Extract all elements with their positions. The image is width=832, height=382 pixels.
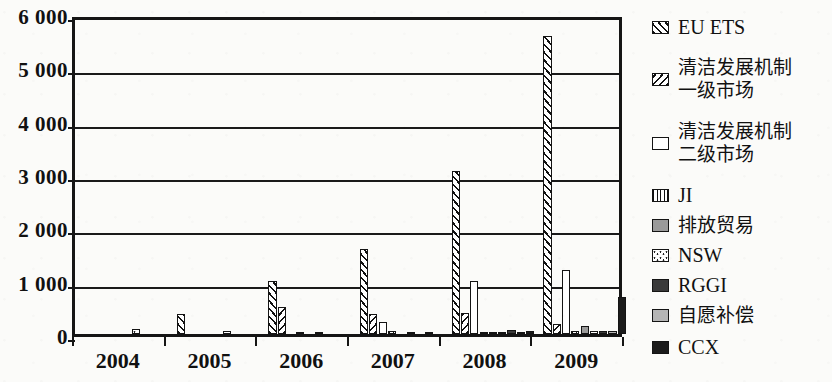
y-tick-mark	[68, 127, 75, 129]
bar-rggi-2008	[507, 330, 515, 334]
legend-item-cdm-secondary[interactable]: 清洁发展机制 二级市场	[652, 120, 792, 166]
legend-item-rggi[interactable]: RGGI	[652, 274, 727, 296]
legend-label: 清洁发展机制 二级市场	[678, 120, 792, 166]
bar-chart-figure: 6 0005 0004 0003 0002 0001 0000 20042005…	[0, 0, 832, 382]
bar-nsw-2008	[498, 332, 506, 334]
legend-label: NSW	[678, 244, 722, 266]
bar-eu-ets-2005	[177, 314, 185, 334]
ji-swatch-icon	[652, 189, 669, 202]
cdm-secondary-swatch-icon	[652, 137, 669, 150]
y-tick-label: 3 000	[18, 167, 68, 188]
bar-eu-ets-2009	[543, 36, 551, 334]
bar-voluntary-offset-2008	[517, 332, 525, 334]
legend-label: RGGI	[678, 274, 727, 296]
x-tick-mark	[255, 337, 257, 346]
x-tick-label: 2006	[279, 349, 323, 373]
legend-item-nsw[interactable]: NSW	[652, 244, 722, 266]
x-axis: 200420052006200720082009	[72, 337, 622, 382]
bar-nsw-2006	[315, 332, 323, 334]
bar-ji-2007	[388, 331, 396, 334]
x-tick-mark	[530, 337, 532, 346]
cdm-primary-swatch-icon	[652, 73, 669, 86]
y-tick-label: 0	[57, 327, 68, 348]
x-tick-mark	[347, 337, 349, 346]
y-tick-label: 4 000	[18, 113, 68, 134]
rggi-swatch-icon	[652, 279, 669, 292]
bar-cdm-secondary-2007	[379, 322, 387, 334]
bar-rggi-2009	[599, 331, 607, 334]
ccx-swatch-icon	[652, 341, 669, 354]
legend-item-cdm-primary[interactable]: 清洁发展机制 一级市场	[652, 56, 792, 102]
bar-emissions-trading-2009	[581, 326, 589, 334]
legend-item-voluntary-offset[interactable]: 自愿补偿	[652, 304, 754, 327]
legend-label: EU ETS	[678, 16, 745, 38]
bar-eu-ets-2007	[360, 249, 368, 334]
legend-item-ccx[interactable]: CCX	[652, 336, 719, 358]
y-tick-label: 2 000	[18, 220, 68, 241]
bar-nsw-2007	[407, 332, 415, 334]
y-tick-mark	[68, 73, 75, 75]
bar-series-container	[75, 20, 619, 334]
legend-item-ji[interactable]: JI	[652, 184, 692, 206]
bar-voluntary-offset-2007	[425, 332, 433, 334]
bar-cdm-secondary-2009	[562, 270, 570, 334]
legend-label: 排放贸易	[678, 214, 754, 237]
bar-cdm-primary-2007	[369, 314, 377, 334]
legend-item-emissions-trading[interactable]: 排放贸易	[652, 214, 754, 237]
emissions-trading-swatch-icon	[652, 219, 669, 232]
bar-nsw-2004	[132, 329, 140, 334]
y-tick-label: 1 000	[18, 273, 68, 294]
x-tick-label: 2008	[463, 349, 507, 373]
x-tick-mark	[622, 337, 624, 346]
bar-eu-ets-2008	[452, 171, 460, 334]
x-tick-mark	[72, 337, 74, 346]
x-tick-label: 2007	[371, 349, 415, 373]
plot-area	[72, 17, 622, 337]
nsw-swatch-icon	[652, 249, 669, 262]
legend-label: CCX	[678, 336, 719, 358]
bar-cdm-primary-2009	[553, 324, 561, 334]
voluntary-offset-swatch-icon	[652, 309, 669, 322]
legend-item-eu-ets[interactable]: EU ETS	[652, 16, 745, 38]
y-tick-label: 5 000	[18, 60, 68, 81]
legend-label: 自愿补偿	[678, 304, 754, 327]
x-tick-mark	[164, 337, 166, 346]
y-tick-mark	[68, 287, 75, 289]
bar-ji-2008	[480, 332, 488, 334]
euets-swatch-icon	[652, 21, 669, 34]
legend-label: 清洁发展机制 一级市场	[678, 56, 792, 102]
legend-label: JI	[678, 184, 692, 206]
bar-ccx-2008	[526, 331, 534, 334]
bar-eu-ets-2006	[268, 281, 276, 334]
x-tick-label: 2005	[188, 349, 232, 373]
x-tick-label: 2009	[554, 349, 598, 373]
bar-voluntary-offset-2009	[608, 331, 616, 334]
bar-cdm-primary-2008	[461, 313, 469, 334]
x-tick-mark	[439, 337, 441, 346]
bar-emissions-trading-2008	[489, 332, 497, 334]
y-tick-mark	[68, 233, 75, 235]
bar-cdm-secondary-2008	[470, 281, 478, 334]
x-tick-label: 2004	[96, 349, 140, 373]
bar-ccx-2009	[618, 297, 626, 334]
chart-legend: EU ETS清洁发展机制 一级市场清洁发展机制 二级市场JI排放贸易NSWRGG…	[652, 8, 832, 378]
bar-ji-2006	[296, 332, 304, 334]
bar-ji-2009	[571, 331, 579, 334]
bar-cdm-primary-2006	[278, 307, 286, 334]
y-tick-mark	[68, 20, 75, 22]
bar-nsw-2005	[223, 331, 231, 334]
bar-nsw-2009	[590, 331, 598, 334]
y-tick-mark	[68, 180, 75, 182]
y-tick-label: 6 000	[18, 7, 68, 28]
y-axis-tick-labels: 6 0005 0004 0003 0002 0001 0000	[0, 0, 68, 382]
